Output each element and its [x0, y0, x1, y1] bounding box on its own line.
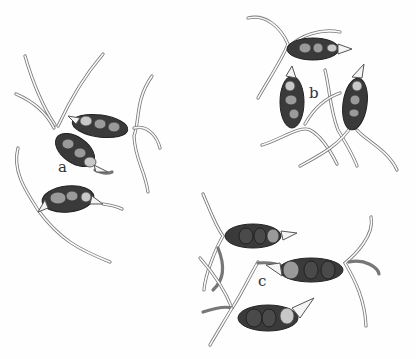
spore-c1	[225, 224, 297, 248]
illustration-canvas: a b	[0, 0, 416, 359]
spores-drawing: a b	[0, 0, 416, 359]
label-a: a	[58, 158, 67, 176]
spore-c2	[266, 258, 343, 282]
spore-b2	[280, 66, 304, 128]
spore-c3	[238, 298, 314, 331]
spore-b1	[287, 38, 352, 60]
label-b: b	[309, 84, 319, 102]
label-c: c	[258, 272, 266, 290]
spore-a3	[38, 183, 103, 214]
spore-b3	[339, 64, 370, 131]
